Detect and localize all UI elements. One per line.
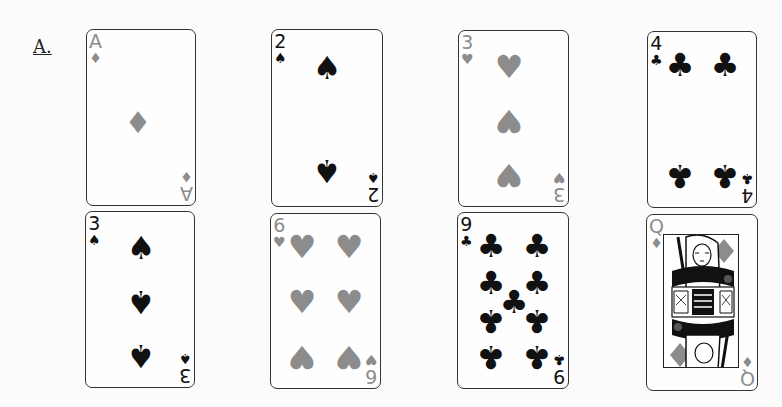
card-rank: 9 (460, 215, 473, 234)
card-rank: 3 (88, 214, 101, 233)
card-nine-of-clubs: 9♣ ♣ ♣ ♣ ♣ ♣ ♣ ♣ ♣ ♣ 9♣ (457, 212, 569, 389)
card-rank: 9 (553, 367, 566, 386)
club-icon: ♣ (553, 353, 566, 367)
card-rank: 2 (274, 32, 287, 51)
club-icon: ♣ (523, 341, 552, 373)
card-rank: 6 (273, 216, 286, 235)
heart-icon: ♥ (495, 105, 524, 137)
card-rank: A (89, 32, 102, 51)
club-icon: ♣ (711, 160, 740, 192)
heart-icon: ♥ (553, 171, 566, 185)
card-rank: 6 (365, 367, 378, 386)
diamond-icon: ♦ (649, 236, 664, 250)
heart-icon: ♥ (335, 231, 364, 263)
club-icon: ♣ (666, 160, 695, 192)
diamond-icon: ♦ (740, 355, 755, 369)
heart-icon: ♥ (335, 341, 364, 373)
club-icon: ♣ (666, 49, 695, 81)
spade-icon: ♠ (88, 233, 101, 247)
card-rank: 4 (741, 186, 754, 205)
club-icon: ♣ (741, 172, 754, 186)
spade-icon: ♠ (127, 286, 156, 318)
spade-icon: ♠ (313, 155, 342, 187)
card-rank: 4 (650, 34, 663, 53)
card-rank: 3 (461, 33, 474, 52)
card-rank: 3 (179, 366, 192, 385)
heart-icon: ♥ (365, 353, 378, 367)
diamond-icon: ♦ (89, 51, 102, 65)
spade-icon: ♠ (127, 340, 156, 372)
heart-icon: ♥ (288, 231, 317, 263)
club-icon: ♣ (477, 230, 506, 262)
card-rank: Q (740, 369, 755, 388)
spade-icon: ♠ (313, 52, 342, 84)
spade-icon: ♠ (179, 352, 192, 366)
club-icon: ♣ (650, 53, 663, 67)
card-three-of-spades: 3♠ ♠ ♠ ♠ 3♠ (85, 211, 195, 388)
card-ace-of-diamonds: A♦ ♦ A♦ (86, 29, 196, 206)
diamond-icon: ♦ (125, 108, 152, 138)
heart-icon: ♥ (461, 52, 474, 66)
spade-icon: ♠ (274, 51, 287, 65)
spade-icon: ♠ (367, 171, 380, 185)
figure-label: A. (33, 36, 52, 57)
heart-icon: ♥ (495, 159, 524, 191)
card-rank: Q (649, 217, 664, 236)
spade-icon: ♠ (127, 232, 156, 264)
diamond-icon: ♦ (180, 170, 193, 184)
heart-icon: ♥ (288, 341, 317, 373)
club-icon: ♣ (477, 341, 506, 373)
club-icon: ♣ (460, 234, 473, 248)
club-icon: ♣ (711, 49, 740, 81)
heart-icon: ♥ (273, 235, 286, 249)
card-six-of-hearts: 6♥ ♥ ♥ ♥ ♥ ♥ ♥ 6♥ (270, 213, 381, 389)
heart-icon: ♥ (288, 286, 317, 318)
card-rank: A (180, 184, 193, 203)
heart-icon: ♥ (495, 51, 524, 83)
queen-portrait (663, 234, 739, 368)
card-rank: 2 (367, 185, 380, 204)
card-two-of-spades: 2♠ ♠ ♠ 2♠ (271, 29, 383, 207)
card-queen-of-diamonds: Q♦ Q♦ (646, 214, 758, 391)
card-three-of-hearts: 3♥ ♥ ♥ ♥ 3♥ (458, 30, 569, 207)
club-icon: ♣ (523, 305, 552, 337)
heart-icon: ♥ (335, 286, 364, 318)
club-icon: ♣ (523, 230, 552, 262)
club-icon: ♣ (477, 305, 506, 337)
card-rank: 3 (553, 185, 566, 204)
queen-illustration-icon (664, 235, 739, 368)
card-four-of-clubs: 4♣ ♣ ♣ ♣ ♣ 4♣ (647, 31, 757, 208)
